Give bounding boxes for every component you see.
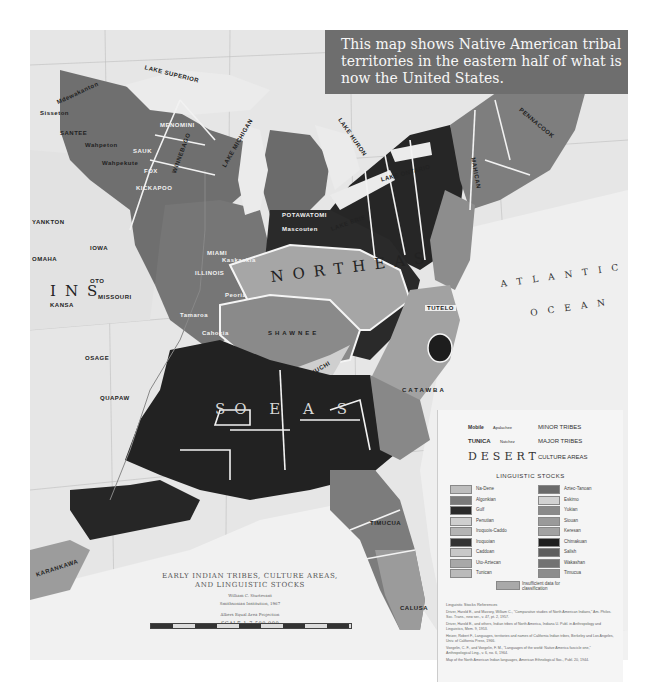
legend-swatch [538,569,560,578]
tribe-oto: OTO [90,278,104,284]
tribe-santee: SANTEE [60,130,87,136]
legend-stock-label: Uto-Aztecan [476,560,501,565]
legend-major-sample: TUNICA [468,438,491,444]
tribe-osage: OSAGE [85,355,109,361]
map-title-line1: EARLY INDIAN TRIBES, CULTURE AREAS, [150,572,350,581]
legend-unknown-label: Insufficient data for classification [522,581,572,591]
legend-stock-label: Na-Dene [476,486,494,491]
legend-stock-label: Siouan [564,518,578,523]
legend-swatch [538,485,560,494]
references-title: Linguistic Stocks References [446,602,616,607]
map-title-line2: AND LINGUISTIC STOCKS [150,581,350,590]
caption-text: This map shows Native American tribal te… [341,36,622,86]
tribe-iowa: IOWA [90,245,108,251]
reference-5: Map of the North American Indian languag… [446,658,616,663]
map-author-affiliation: Smithsonian Institution, 1967 [150,601,350,606]
legend-stock-label: Aztec-Tanoan [564,486,592,491]
legend-stock-label: Tunican [476,570,492,575]
legend-swatch [450,559,472,568]
tribe-fox: FOX [144,168,158,174]
legend-panel: Mobile Apalachee MINOR TRIBES TUNICA Nat… [437,410,623,682]
tribe-wahpekute: Wahpekute [102,160,138,166]
legend-minor-desc: MINOR TRIBES [538,424,581,430]
legend-stocks-title: LINGUISTIC STOCKS [438,473,623,479]
tribe-wahpeton: Wahpeton [85,142,118,148]
legend-stock-label: Eskimo [564,497,579,502]
map-projection: Albers Equal Area Projection [150,612,350,617]
reference-4: Voegelin, C. F., and Voegelin, F. M., "L… [446,646,616,656]
legend-stock-label: Keresan [564,528,581,533]
legend-swatch [450,506,472,515]
tribe-potawatomi: POTAWATOMI [282,212,327,218]
tribe-tutelo: TUTELO [425,305,456,311]
tribe-sisseton: Sisseton [40,110,69,116]
legend-stock-label: Gulf [476,507,484,512]
legend-stock-label: Caddoan [476,549,494,554]
legend-swatch [450,569,472,578]
tribe-kickapoo: KICKAPOO [136,185,172,191]
legend-swatch [450,517,472,526]
legend-swatch [538,517,560,526]
legend-stock-label: Timucua [564,570,581,575]
tribe-menomini: MENOMINI [160,122,195,128]
tribe-catawba: CATAWBA [402,387,446,393]
tribe-mascouten: Mascouten [282,226,318,232]
legend-minor-sample-sub: Apalachee [493,425,512,430]
legend-swatch [538,527,560,536]
tribe-kansa: KANSA [50,302,74,308]
tribe-peoria: Peoria [225,292,246,298]
reference-1: Driver, Harold E., and Massey, William C… [446,610,616,620]
legend-unknown-swatch [496,581,520,590]
legend-stock-label: Wakashan [564,560,585,565]
legend-stock-label: Iroquoian [476,539,495,544]
legend-culture-desc: CULTURE AREAS [538,454,588,460]
legend-stock-label: Penutian [476,518,494,523]
legend-swatch [450,548,472,557]
scale-bar [150,623,352,629]
legend-swatch [538,548,560,557]
legend-swatch [538,496,560,505]
caption-box: This map shows Native American tribal te… [325,30,628,94]
tribe-shawnee: SHAWNEE [268,330,319,336]
legend-stock-label: Yukian [564,507,578,512]
tribe-kaskaskia: Kaskaskia [222,257,256,263]
legend-major-sample-sub: Natchez [500,439,515,444]
legend-swatch [450,538,472,547]
tribe-missouri: MISSOURI [98,294,132,300]
tribe-miami: MIAMI [207,250,227,256]
tribe-timucua: TIMUCUA [370,520,401,526]
legend-minor-sample: Mobile [468,424,484,430]
map-title-block: EARLY INDIAN TRIBES, CULTURE AREAS, AND … [150,572,350,626]
culture-area-southeast: SO E A S [215,400,356,418]
legend-stock-label: Iroquois-Caddo [476,528,507,533]
legend-stock-label: Salish [564,549,576,554]
tribe-tamaroa: Tamaroa [180,312,208,318]
tribe-omaha: OMAHA [32,256,57,262]
map-author: William C. Sturtevant [150,593,350,598]
tribe-cahokia: Cahokia [202,330,229,336]
tribe-calusa: CALUSA [400,605,428,611]
legend-swatch [538,506,560,515]
legend-stock-label: Chimakuan [564,539,587,544]
tribe-yankton: YANKTON [32,219,65,225]
reference-2: Driver, Harold E., and others, Indian tr… [446,622,616,632]
legend-swatch [538,559,560,568]
tribe-quapaw: QUAPAW [100,395,130,401]
legend-swatch [450,496,472,505]
legend-stock-label: Algonkian [476,497,496,502]
legend-swatch [450,485,472,494]
legend-culture-sample: DESERT [468,450,540,463]
legend-major-desc: MAJOR TRIBES [538,438,582,444]
tribe-sauk: SAUK [133,148,152,154]
reference-3: Heizer, Robert F., Languages, territorie… [446,634,616,644]
legend-swatch [450,527,472,536]
tribe-illinois: ILLINOIS [195,270,224,276]
legend-swatch [538,538,560,547]
